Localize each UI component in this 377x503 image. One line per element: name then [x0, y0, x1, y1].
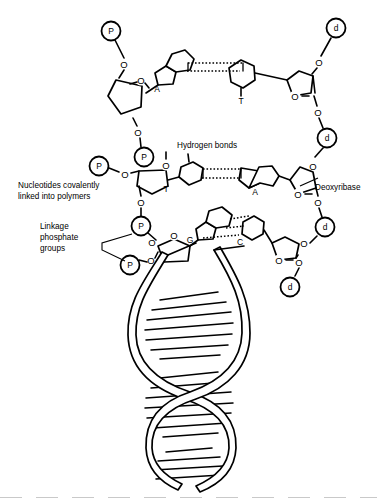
label-linkage-line2: phosphate: [40, 233, 79, 242]
base-label-g-bottom: G: [187, 235, 194, 245]
atom-o-right-mid-2: O: [314, 197, 321, 208]
atom-o-ring-bot-left-1: O: [148, 237, 155, 248]
atom-o-left-mid-1: O: [121, 169, 128, 180]
phosphate-circle-4-label: P: [138, 221, 144, 231]
bond-o-to-p: [140, 138, 141, 147]
deoxyribose-circle-3-label: d: [323, 222, 328, 232]
phosphate-circle-3-label: P: [96, 161, 102, 171]
atom-o-ring-mid-left: O: [162, 160, 169, 171]
phosphate-circle-5-label: P: [127, 260, 133, 270]
dna-structure-figure: O P O O P A T: [0, 0, 377, 503]
atom-o-right-top-1: O: [315, 57, 322, 68]
dna-diagram-canvas: O P O O P A T: [0, 0, 377, 503]
atom-o-right-bot-1: O: [300, 238, 307, 249]
label-hydrogen-bonds: Hydrogen bonds: [177, 141, 237, 150]
phosphate-circle-2-label: P: [141, 152, 147, 162]
atom-o-ring-bot-right-1: O: [275, 255, 282, 266]
atom-o-left-top-2: O: [134, 127, 141, 138]
atom-o-right-top-2: O: [314, 107, 321, 118]
base-label-t-middle: T: [163, 184, 168, 194]
atom-o-ring-top-left: O: [137, 75, 144, 86]
deoxyribose-circle-1-label: d: [334, 23, 339, 33]
phosphate-circle-1-label: P: [108, 26, 114, 36]
atom-o-ring-top-right: O: [291, 91, 298, 102]
atom-o-right-mid-1: O: [309, 161, 316, 172]
deoxyribose-circle-2-label: d: [325, 133, 330, 143]
methyl-stub-mid: [188, 154, 189, 162]
deoxyribose-circle-4-label: d: [288, 282, 293, 292]
label-nucleotides-line2: linked into polymers: [18, 192, 90, 201]
label-nucleotides-line1: Nucleotides covalently: [18, 181, 100, 190]
atom-o-left-top-1: O: [120, 59, 127, 70]
label-linkage-line3: groups: [40, 244, 65, 253]
base-label-a-middle: A: [252, 187, 258, 197]
atom-o-right-bot-2: O: [295, 257, 302, 268]
atom-o-ring-mid-right: O: [294, 189, 301, 200]
base-label-a-top: A: [154, 84, 160, 94]
base-label-t-top: T: [238, 96, 243, 106]
atom-o-left-mid-2: O: [137, 197, 144, 208]
atom-o-ring-bot-left-2: O: [170, 230, 177, 241]
label-linkage-line1: Linkage: [40, 222, 69, 231]
label-deoxyribose: Deoxyribase: [315, 183, 361, 192]
